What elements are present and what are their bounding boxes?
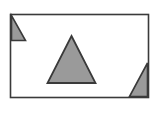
geometry-figure (0, 0, 158, 113)
figure-canvas (0, 0, 158, 113)
